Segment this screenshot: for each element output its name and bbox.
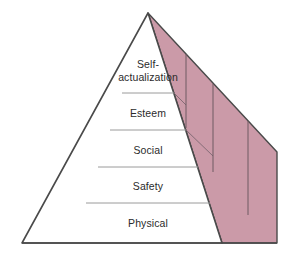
pyramid-diagram: Self- actualization Esteem Social Safety… xyxy=(0,0,289,255)
pyramid-graphic xyxy=(0,0,289,255)
